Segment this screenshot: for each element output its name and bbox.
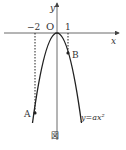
curve-label: y=ax² (80, 113, 105, 122)
figure-caption: 図 (51, 131, 59, 140)
point-a-label: A (23, 109, 31, 119)
point-b-label: B (72, 50, 79, 60)
point-a (33, 111, 36, 114)
tick-label-neg2: −2 (27, 22, 40, 32)
y-axis-label: y (49, 3, 56, 13)
origin-label: O (46, 21, 54, 32)
tick-label-1: 1 (65, 22, 71, 32)
point-b (66, 51, 69, 54)
parabola-diagram: y x O −2 1 B A y=ax² 図 (0, 0, 126, 150)
x-axis-label: x (111, 36, 116, 46)
